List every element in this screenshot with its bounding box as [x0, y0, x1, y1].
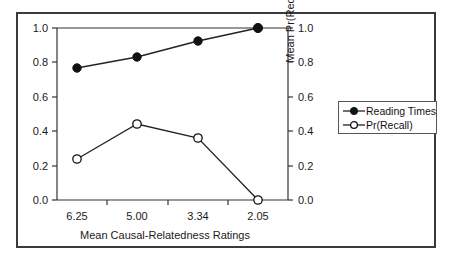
data-point-reading-times: [253, 23, 262, 32]
x-axis-tick-label: 3.34: [173, 211, 223, 222]
left-axis-tick-label: 0.2: [20, 161, 48, 172]
filled-circle-marker-icon: [342, 105, 366, 117]
data-point-reading-times: [133, 53, 141, 61]
data-point-pr-recall: [73, 155, 81, 163]
series-reading-times-line: [77, 28, 258, 68]
series-reading-times: [73, 23, 263, 72]
legend-label: Reading Times: [366, 106, 436, 117]
left-axis-tick-label: 1.0: [20, 23, 48, 34]
right-axis-tick-label: 0.6: [298, 92, 326, 103]
legend-item-pr-recall: Pr(Recall): [339, 118, 436, 132]
left-axis-ticks: [52, 28, 57, 200]
x-axis-title: Mean Causal-Relatedness Ratings: [40, 229, 290, 241]
legend-item-reading-times: Reading Times: [339, 104, 436, 118]
x-axis-tick-label: 2.05: [233, 211, 283, 222]
open-circle-marker-icon: [342, 119, 366, 131]
data-point-reading-times: [73, 64, 81, 72]
figure: 1.0 0.8 0.6 0.4 0.2 0.0 1.0 0.8 0.6 0.4 …: [0, 0, 456, 266]
data-point-pr-recall: [133, 120, 141, 128]
legend-label: Pr(Recall): [366, 120, 413, 131]
right-axis-tick-label: 0.0: [298, 195, 326, 206]
series-pr-recall: [73, 120, 262, 204]
left-axis-tick-label: 0.8: [20, 57, 48, 68]
right-axis-title: Mean Pr(Recall): [284, 0, 296, 78]
data-point-pr-recall: [254, 196, 262, 204]
x-axis-ticks: [107, 200, 228, 205]
left-axis-tick-label: 0.0: [20, 195, 48, 206]
x-axis-tick-label: 5.00: [112, 211, 162, 222]
data-point-pr-recall: [194, 134, 202, 142]
right-axis-tick-label: 0.2: [298, 161, 326, 172]
left-axis-tick-label: 0.6: [20, 92, 48, 103]
right-axis-tick-label: 0.4: [298, 126, 326, 137]
legend: Reading Times Pr(Recall): [338, 101, 437, 134]
data-point-reading-times: [194, 37, 202, 45]
right-axis-tick-label: 0.8: [298, 57, 326, 68]
right-axis-tick-label: 1.0: [298, 23, 326, 34]
series-pr-recall-line: [77, 124, 258, 200]
x-axis-tick-label: 6.25: [52, 211, 102, 222]
left-axis-tick-label: 0.4: [20, 126, 48, 137]
